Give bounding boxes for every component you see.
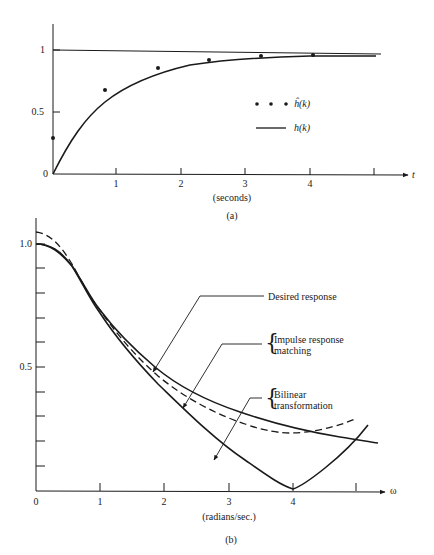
panel-b-x-axis: [36, 491, 385, 492]
panel-a-reference-line: [53, 50, 381, 54]
panel-b-xlabel-3: 3: [227, 496, 232, 507]
panel-a-series-h: [53, 56, 376, 174]
panel-a-chart: [53, 24, 408, 175]
bilinear-leader: [214, 398, 262, 460]
annotation-bilinear-line1: Bilinear: [274, 389, 306, 400]
panel-b-xlabel-0: 0: [34, 496, 39, 507]
desired-response-leader: [153, 296, 264, 372]
panel-b-chart: [36, 218, 385, 492]
panel-b-yticks: [36, 244, 45, 466]
panel-a-xlabel-3: 3: [243, 178, 248, 189]
panel-a-xlabel-2: 2: [179, 178, 184, 189]
panel-a-xlabel-1: 1: [114, 178, 119, 189]
annotation-impulse-line2: matching: [274, 345, 311, 356]
legend-label-h: h(k): [294, 122, 310, 133]
panel-b-caption: (b): [225, 534, 237, 545]
panel-b-xlabel-1: 1: [98, 496, 103, 507]
panel-b-ylabel-05: 0.5: [2, 361, 32, 372]
panel-b-series-bilinear: [36, 244, 368, 489]
panel-b-xticks: [100, 483, 356, 491]
panel-a-unit: (seconds): [213, 192, 251, 203]
panel-b-axis-symbol-omega: ω: [390, 485, 397, 496]
legend-label-hhat: ĥ(k): [294, 98, 310, 109]
panel-a-ylabel-1: 1: [15, 44, 45, 55]
panel-b-xlabel-4: 4: [291, 496, 296, 507]
panel-a-ylabel-05: 0.5: [14, 106, 44, 117]
panel-b-unit: (radians/sec.): [202, 511, 256, 522]
panel-a-xlabel-4: 4: [308, 178, 313, 189]
annotation-impulse-line1: Impulse response: [274, 334, 344, 345]
panel-b-xlabel-2: 2: [162, 496, 167, 507]
panel-a-axis-symbol-t: t: [412, 169, 415, 180]
panel-b-ylabel-1: 1.0: [2, 238, 32, 249]
panel-a-caption: (a): [226, 210, 237, 221]
annotation-bilinear-line2: transformation: [274, 400, 333, 411]
panel-a-x-axis: [53, 174, 408, 175]
annotation-desired-response: Desired response: [268, 291, 337, 302]
panel-a-ylabel-0: 0: [18, 168, 48, 179]
figure-canvas: [0, 0, 434, 555]
